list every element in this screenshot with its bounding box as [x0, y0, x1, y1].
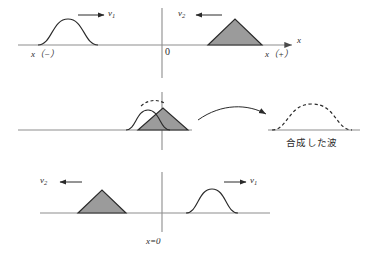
bottom-left-triangle-pulse: [78, 190, 126, 213]
bottom-v1-label: v1: [250, 176, 257, 185]
panel-bottom: [40, 182, 270, 213]
middle-triangle-pulse: [138, 108, 188, 130]
x-axis-label: x: [297, 36, 301, 45]
resultant-dashed-pulse: [272, 104, 352, 130]
transfer-curved-arrow: [198, 107, 266, 120]
x-negative-label: x（−）: [31, 50, 59, 59]
top-left-gaussian-pulse: [38, 19, 98, 45]
top-v2-label: v2: [178, 9, 185, 18]
top-v1-label: v1: [108, 9, 115, 18]
bottom-v2-label: v2: [40, 176, 47, 185]
panel-top: [18, 15, 292, 45]
x-positive-label: x（+）: [265, 50, 293, 59]
top-right-triangle-pulse: [208, 19, 262, 45]
panel-middle: [18, 100, 360, 130]
x-equals-zero-label: x=0: [146, 237, 161, 246]
bottom-right-gaussian-pulse: [186, 189, 238, 213]
wave-superposition-figure: [0, 0, 373, 258]
origin-zero-label: 0: [165, 47, 170, 57]
resultant-wave-caption: 合成した波: [286, 138, 338, 148]
